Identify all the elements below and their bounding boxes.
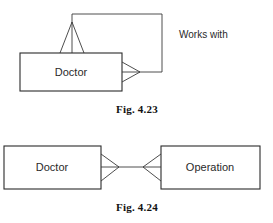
figure-4-24-group: Doctor Operation Fig. 4.24 xyxy=(4,146,260,213)
crows-foot-operation-side xyxy=(143,154,161,181)
crows-foot-prong-upper xyxy=(143,154,161,167)
crows-foot-prong-upper xyxy=(101,154,119,167)
diagram-canvas: Doctor Works with Fig. 4.23 Doctor Opera… xyxy=(0,0,273,223)
entity-label-doctor-recursive: Doctor xyxy=(55,66,88,78)
figure-caption-4-24: Fig. 4.24 xyxy=(116,201,158,213)
crows-foot-doctor-side xyxy=(101,154,119,181)
figure-page: Doctor Works with Fig. 4.23 Doctor Opera… xyxy=(0,0,273,223)
crows-foot-top xyxy=(60,22,84,53)
crows-foot-prong-right xyxy=(72,22,84,53)
crows-foot-prong-lower xyxy=(122,72,140,82)
crows-foot-right xyxy=(122,62,140,82)
crows-foot-prong-lower xyxy=(101,167,119,181)
entity-label-doctor: Doctor xyxy=(36,161,69,173)
figure-4-23-group: Doctor Works with Fig. 4.23 xyxy=(20,14,228,115)
crows-foot-prong-left xyxy=(60,22,72,53)
relationship-label-works-with: Works with xyxy=(179,29,228,40)
figure-caption-4-23: Fig. 4.23 xyxy=(116,103,158,115)
entity-label-operation: Operation xyxy=(186,161,234,173)
crows-foot-prong-lower xyxy=(143,167,161,181)
crows-foot-prong-upper xyxy=(122,62,140,72)
